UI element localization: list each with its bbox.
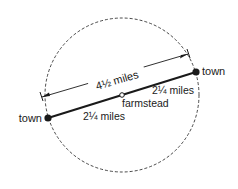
segment-left-label: 2¼ miles (83, 110, 125, 122)
arrow-left-icon (42, 93, 50, 98)
farmstead-distance-diagram: 4½ miles town town farmstead 2¼ miles 2¼… (0, 0, 238, 189)
farmstead-label: farmstead (122, 97, 169, 109)
town-left-marker (44, 114, 51, 121)
town-right-label: town (202, 65, 225, 77)
diagram-canvas: 4½ miles town town farmstead 2¼ miles 2¼… (0, 0, 238, 189)
town-left-label: town (19, 112, 42, 124)
segment-right-label: 2¼ miles (152, 84, 194, 96)
town-right-marker (192, 68, 199, 75)
